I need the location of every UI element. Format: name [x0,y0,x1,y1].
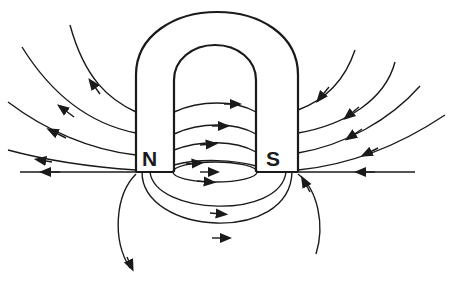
field-line-right-1 [298,50,355,110]
field-line-left-1 [70,25,136,112]
field-line-left-4 [8,150,136,170]
gap-line-1 [174,103,256,112]
field-line-right-4 [298,115,445,170]
magnet-diagram: N S [0,0,451,290]
lower-loop-1 [150,172,286,206]
north-pole-label: N [142,148,157,169]
lower-left-line [118,174,136,268]
field-line-right-3 [298,86,420,153]
magnet-inner-outline [174,45,256,172]
field-line-left-2 [22,47,136,133]
field-line-right-2 [298,62,395,133]
lower-loop-2 [142,172,292,223]
gap-line-3 [174,143,256,152]
field-lines-svg [0,0,451,290]
lower-right-line [298,174,320,254]
gap-ellipse [173,162,257,182]
south-pole-label: S [266,148,280,169]
